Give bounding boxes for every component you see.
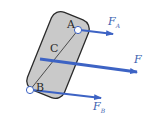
label-b: B [36, 81, 44, 94]
label-a: A [66, 18, 76, 31]
point-a-circle [74, 26, 81, 33]
label-fb: FB [92, 100, 106, 114]
force-diagram: A C B FA F FB [0, 0, 149, 118]
label-f: F [133, 53, 142, 66]
point-b-circle [26, 86, 33, 93]
diagram-canvas: A C B FA F FB [0, 0, 149, 118]
label-c: C [50, 42, 58, 55]
label-fa: FA [107, 15, 121, 29]
